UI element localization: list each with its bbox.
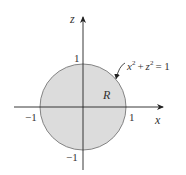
tick-x-neg-1: −1 <box>25 111 37 123</box>
tick-z-neg-1: −1 <box>66 151 78 163</box>
tick-z-pos-1: 1 <box>74 52 80 64</box>
region-diagram: x z 1 −1 1 −1 R x2+z2= 1 <box>0 0 186 175</box>
curve-equation: x2+z2= 1 <box>126 59 170 72</box>
tick-x-pos-1: 1 <box>129 111 135 123</box>
x-axis-label: x <box>154 113 161 127</box>
region-label: R <box>102 88 111 102</box>
curve-pointer-arrow <box>116 63 125 79</box>
z-axis-label: z <box>69 12 75 26</box>
